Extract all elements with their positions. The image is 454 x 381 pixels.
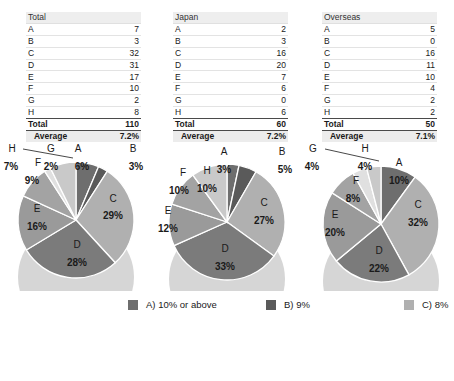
row-value: 0 bbox=[389, 35, 437, 47]
pie-label-f: F bbox=[35, 157, 41, 168]
table-header-row: Overseas bbox=[322, 12, 437, 23]
pie-percent-b: 5% bbox=[278, 164, 293, 175]
table-row: C16 bbox=[173, 47, 288, 59]
legend-label-a: A) 10% or above bbox=[146, 299, 217, 310]
row-value: 7 bbox=[93, 23, 141, 35]
pie-label-a: A bbox=[221, 146, 228, 157]
pie-percent-f: 10% bbox=[169, 185, 189, 196]
pie-percent-g: 4% bbox=[305, 161, 320, 172]
total-pie-chart: A6%B3%C29%D28%E16%F9%G2%H7% bbox=[1, 136, 152, 291]
tables-row: Total A7 B3 C32 D31 E17 F10 G2 H8 Total1… bbox=[0, 0, 454, 136]
row-value: 3 bbox=[93, 35, 141, 47]
row-key: A bbox=[26, 23, 93, 35]
pie-label-b: B bbox=[130, 143, 137, 154]
pie-label-h: H bbox=[203, 165, 210, 176]
table-row: A7 bbox=[26, 23, 141, 35]
table-header-value bbox=[240, 12, 288, 23]
legend-label-c: C) 8% bbox=[422, 299, 448, 310]
japan-pie-svg: A3%B5%C27%D33%E12%F10%H10% bbox=[152, 136, 303, 291]
legend-items: A) 10% or above B) 9% C) 8% D) 7% E) 6% … bbox=[128, 294, 454, 315]
table-header-row: Japan bbox=[173, 12, 288, 23]
row-key: E bbox=[26, 71, 93, 83]
legend-swatch-b bbox=[266, 300, 276, 310]
pie-percent-h: 7% bbox=[4, 161, 19, 172]
pie-label-a: A bbox=[396, 157, 403, 168]
pie-percent-b: 3% bbox=[129, 161, 144, 172]
row-key: C bbox=[173, 47, 240, 59]
total-label: Total bbox=[322, 118, 389, 130]
japan-table: Japan A2 B3 C16 D20 E7 F6 G0 H6 Total60 … bbox=[173, 12, 288, 142]
row-value: 6 bbox=[240, 83, 288, 95]
legend-swatch-c bbox=[404, 300, 414, 310]
table-row: E10 bbox=[322, 71, 437, 83]
table-row: C16 bbox=[322, 47, 437, 59]
pie-label-e: E bbox=[34, 203, 41, 214]
table-row: G0 bbox=[173, 95, 288, 107]
total-value: 60 bbox=[240, 118, 288, 130]
overseas-table-wrapper: Overseas A5 B0 C16 D11 E10 F4 G2 H2 Tota… bbox=[322, 12, 437, 142]
row-key: H bbox=[322, 107, 389, 119]
table-header-value bbox=[389, 12, 437, 23]
table-row: D11 bbox=[322, 59, 437, 71]
row-key: C bbox=[322, 47, 389, 59]
pie-percent-a: 3% bbox=[217, 164, 232, 175]
pie-label-c: C bbox=[414, 199, 421, 210]
pie-label-g: G bbox=[309, 143, 317, 154]
pie-charts-row: A6%B3%C29%D28%E16%F9%G2%H7% A3%B5%C27%D3… bbox=[0, 136, 454, 291]
row-value: 2 bbox=[93, 95, 141, 107]
table-row: B3 bbox=[26, 35, 141, 47]
chart-legend: A) 10% or above B) 9% C) 8% D) 7% E) 6% … bbox=[0, 291, 454, 381]
total-table-wrapper: Total A7 B3 C32 D31 E17 F10 G2 H8 Total1… bbox=[26, 12, 141, 142]
row-value: 3 bbox=[240, 35, 288, 47]
table-header-value bbox=[93, 12, 141, 23]
table-row: E7 bbox=[173, 71, 288, 83]
pie-percent-h: 10% bbox=[197, 183, 217, 194]
table-row: F4 bbox=[322, 83, 437, 95]
pie-label-h: H bbox=[8, 143, 15, 154]
row-key: G bbox=[173, 95, 240, 107]
legend-item-a: A) 10% or above bbox=[128, 294, 246, 315]
overseas-table: Overseas A5 B0 C16 D11 E10 F4 G2 H2 Tota… bbox=[322, 12, 437, 142]
pie-percent-c: 27% bbox=[254, 215, 274, 226]
row-key: E bbox=[322, 71, 389, 83]
pie-percent-a: 6% bbox=[75, 161, 90, 172]
table-total-row: Total50 bbox=[322, 118, 437, 130]
total-table: Total A7 B3 C32 D31 E17 F10 G2 H8 Total1… bbox=[26, 12, 141, 142]
pie-label-d: D bbox=[375, 245, 382, 256]
row-key: G bbox=[26, 95, 93, 107]
table-row: D31 bbox=[26, 59, 141, 71]
row-value: 10 bbox=[389, 71, 437, 83]
row-key: D bbox=[26, 59, 93, 71]
row-key: D bbox=[173, 59, 240, 71]
table-header-row: Total bbox=[26, 12, 141, 23]
pie-percent-c: 29% bbox=[103, 210, 123, 221]
row-value: 16 bbox=[240, 47, 288, 59]
pie-label-h: H bbox=[361, 143, 368, 154]
total-label: Total bbox=[173, 118, 240, 130]
row-key: H bbox=[173, 107, 240, 119]
total-value: 110 bbox=[93, 118, 141, 130]
total-label: Total bbox=[26, 118, 93, 130]
row-key: B bbox=[322, 35, 389, 47]
row-key: F bbox=[322, 83, 389, 95]
row-key: A bbox=[322, 23, 389, 35]
table-row: A5 bbox=[322, 23, 437, 35]
row-key: E bbox=[173, 71, 240, 83]
row-key: G bbox=[322, 95, 389, 107]
pie-label-a: A bbox=[75, 143, 82, 154]
overseas-pie-svg: A10%C32%D22%E20%F8%G4%H4% bbox=[303, 136, 454, 291]
overseas-table-body: Overseas A5 B0 C16 D11 E10 F4 G2 H2 Tota… bbox=[322, 12, 437, 142]
row-value: 20 bbox=[240, 59, 288, 71]
row-value: 17 bbox=[93, 71, 141, 83]
pie-percent-e: 12% bbox=[158, 223, 178, 234]
table-row: H8 bbox=[26, 107, 141, 119]
table-row: B0 bbox=[322, 35, 437, 47]
row-value: 6 bbox=[240, 107, 288, 119]
overseas-pie-chart: A10%C32%D22%E20%F8%G4%H4% bbox=[303, 136, 454, 291]
pie-label-d: D bbox=[73, 239, 80, 250]
pie-label-g: G bbox=[47, 143, 55, 154]
pie-label-e: E bbox=[332, 209, 339, 220]
table-row: B3 bbox=[173, 35, 288, 47]
row-key: B bbox=[26, 35, 93, 47]
row-value: 32 bbox=[93, 47, 141, 59]
